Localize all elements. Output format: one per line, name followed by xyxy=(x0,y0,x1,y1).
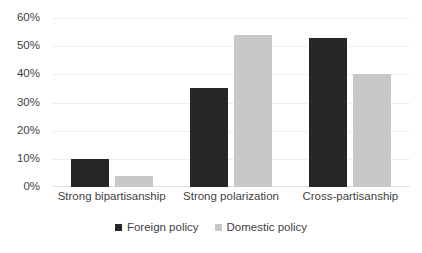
bar-group-strong-bipartisanship xyxy=(52,18,171,187)
bar-chart: 60% 50% 40% 30% 20% 10% 0% Strong bipart… xyxy=(0,0,422,253)
bar-foreign-policy xyxy=(190,88,228,187)
y-tick-label: 10% xyxy=(17,153,40,165)
bar-domestic-policy xyxy=(115,176,153,187)
y-tick-label: 60% xyxy=(17,12,40,24)
y-tick-label: 0% xyxy=(23,181,40,193)
x-tick-label-strong-polarization: Strong polarization xyxy=(171,190,290,204)
bar-domestic-policy xyxy=(353,74,391,187)
y-axis: 60% 50% 40% 30% 20% 10% 0% xyxy=(0,18,46,187)
y-tick-label: 30% xyxy=(17,97,40,109)
legend: Foreign policy Domestic policy xyxy=(0,222,422,234)
y-tick-label: 40% xyxy=(17,69,40,81)
x-tick-label-strong-bipartisanship: Strong bipartisanship xyxy=(52,190,171,204)
legend-swatch-icon xyxy=(115,224,122,231)
x-axis-labels: Strong bipartisanship Strong polarizatio… xyxy=(52,190,410,204)
bar-group-cross-partisanship xyxy=(291,18,410,187)
legend-item-foreign-policy: Foreign policy xyxy=(115,222,199,234)
bar-foreign-policy xyxy=(71,159,109,187)
legend-item-domestic-policy: Domestic policy xyxy=(215,222,308,234)
bar-foreign-policy xyxy=(309,38,347,187)
y-tick-label: 20% xyxy=(17,125,40,137)
legend-swatch-icon xyxy=(215,224,222,231)
y-tick-label: 50% xyxy=(17,40,40,52)
bar-group-strong-polarization xyxy=(171,18,290,187)
bar-domestic-policy xyxy=(234,35,272,187)
x-tick-label-cross-partisanship: Cross-partisanship xyxy=(291,190,410,204)
legend-label: Domestic policy xyxy=(227,222,308,234)
bar-groups xyxy=(52,18,410,187)
legend-label: Foreign policy xyxy=(127,222,199,234)
